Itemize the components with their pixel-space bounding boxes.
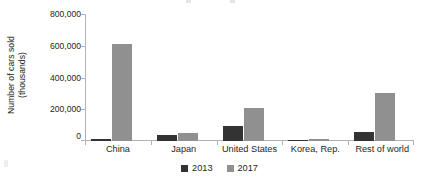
legend-label-2013: 2013	[192, 163, 212, 174]
bar-group-china	[85, 14, 151, 141]
bar-2013-japan	[157, 135, 177, 141]
chart-legend: 2013 2017	[0, 160, 425, 176]
legend-item-2013: 2013	[181, 163, 212, 174]
scan-artifact	[186, 0, 191, 3]
bar-2017-rest-of-world	[375, 93, 395, 141]
y-axis-tick-label: 800,000	[34, 9, 81, 19]
bar-2013-korea-rep	[288, 140, 308, 141]
bar-chart-figure: Number of cars sold (thousands) 800,000 …	[0, 0, 425, 187]
bar-2013-united-states	[223, 126, 243, 141]
bar-group-united-states	[217, 14, 283, 141]
scan-artifact	[230, 0, 235, 3]
legend-swatch-2013	[181, 165, 188, 172]
bar-group-rest-of-world	[348, 14, 414, 141]
x-axis-tick-label-china: China	[85, 143, 151, 156]
legend-swatch-2017	[227, 165, 234, 172]
bar-2017-china	[112, 44, 132, 141]
y-axis-tick-label: 200,000	[34, 104, 81, 114]
y-axis-title-line-2: (thousands)	[17, 36, 28, 114]
y-axis-tick-labels: 800,000 600,000 400,000 200,000 0	[34, 9, 81, 144]
bars-layer	[85, 14, 414, 141]
y-axis-title-line-1: Number of cars sold	[6, 36, 17, 114]
y-axis-title: Number of cars sold (thousands)	[0, 0, 34, 150]
bar-2017-japan	[178, 133, 198, 141]
bar-group-japan	[151, 14, 217, 141]
y-axis-tick-label: 600,000	[34, 41, 81, 51]
bar-2013-rest-of-world	[354, 132, 374, 141]
y-axis-tick-label: 0	[34, 131, 81, 141]
x-axis-tick-label-korea-rep: Korea, Rep.	[282, 143, 348, 156]
bar-2017-korea-rep	[309, 139, 329, 141]
x-axis-tick-labels: China Japan United States Korea, Rep. Re…	[85, 143, 425, 157]
bar-2013-china	[91, 139, 111, 141]
legend-item-2017: 2017	[227, 163, 258, 174]
legend-label-2017: 2017	[238, 163, 258, 174]
x-axis-tick-label-united-states: United States	[217, 143, 283, 156]
bar-2017-united-states	[244, 108, 264, 141]
y-axis-tick-label: 400,000	[34, 73, 81, 83]
plot-area	[85, 14, 414, 141]
bar-group-korea-rep	[282, 14, 348, 141]
x-axis-tick-label-rest-of-world: Rest of world	[348, 143, 416, 156]
x-axis-tick-label-japan: Japan	[151, 143, 217, 156]
